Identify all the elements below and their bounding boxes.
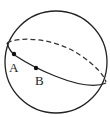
point-a-label: A xyxy=(9,60,19,75)
sphere-outline xyxy=(5,11,107,113)
point-b-marker xyxy=(34,66,38,70)
point-b-label: B xyxy=(35,73,44,88)
sphere-diagram: A B xyxy=(0,0,110,117)
great-circle-back-arc xyxy=(7,39,106,82)
point-a-marker xyxy=(12,52,16,56)
sphere-figure: A B xyxy=(0,0,110,117)
